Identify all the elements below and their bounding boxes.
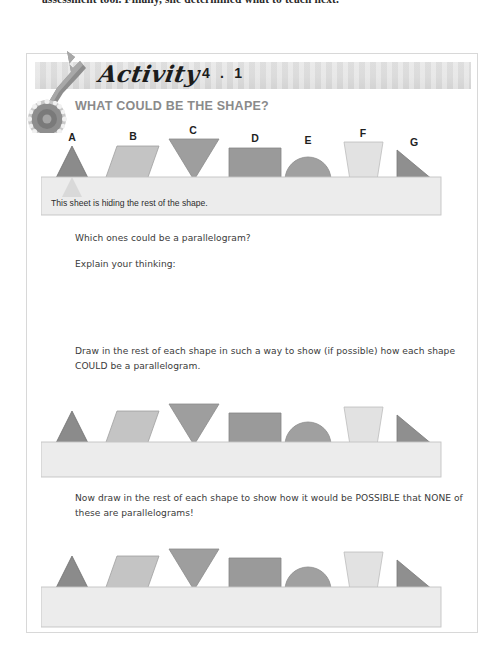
shape-f-trapezoid <box>344 552 383 590</box>
shape-g-right-triangle <box>397 560 433 590</box>
shape-c-inverted-triangle <box>169 549 219 590</box>
shape-a-triangle <box>55 146 89 180</box>
running-text: assessment tool. Finally, she determined… <box>42 0 462 6</box>
shape-f-trapezoid <box>344 142 383 180</box>
shape-d-rectangle <box>229 148 281 180</box>
shape-scene-2 <box>41 389 451 479</box>
hiding-sheet-caption: This sheet is hiding the rest of the sha… <box>51 198 208 208</box>
instruction-none-are: Now draw in the rest of each shape to sh… <box>75 491 465 521</box>
shape-f-trapezoid <box>344 407 383 445</box>
activity-word: Activity <box>97 60 202 87</box>
hiding-sheet-1 <box>41 177 441 215</box>
shape-e-semicircle <box>285 567 331 590</box>
shape-scene-3-svg <box>41 534 451 629</box>
shape-scene-2-svg <box>41 389 451 479</box>
shape-c-inverted-triangle <box>169 404 219 445</box>
shape-b-parallelogram <box>105 411 159 445</box>
shape-label-f: F <box>360 127 367 139</box>
question-explain: Explain your thinking: <box>75 257 375 272</box>
activity-number: 4 . 1 <box>202 65 245 81</box>
shape-a-triangle <box>55 556 89 590</box>
question-parallelogram: Which ones could be a parallelogram? <box>75 231 375 246</box>
hiding-sheet-2 <box>41 442 441 477</box>
activity-card: Activity 4 . 1 WHAT COULD B <box>26 53 478 633</box>
shape-g-right-triangle <box>397 150 433 180</box>
shape-label-g: G <box>410 136 418 148</box>
shape-scene-3 <box>41 534 451 629</box>
shape-e-semicircle <box>285 422 331 445</box>
shape-a-triangle <box>55 411 89 445</box>
shape-label-e: E <box>304 134 311 146</box>
shape-label-d: D <box>251 132 259 144</box>
shape-d-rectangle <box>229 558 281 590</box>
shape-label-b: B <box>129 130 137 142</box>
hiding-sheet-3 <box>41 587 441 627</box>
page-title: WHAT COULD BE THE SHAPE? <box>75 99 269 113</box>
shape-scene-labeled: A B C D E F G This sheet is <box>41 124 451 219</box>
shape-label-a: A <box>68 131 76 143</box>
shape-b-parallelogram <box>105 556 159 590</box>
shape-g-right-triangle <box>397 415 433 445</box>
shape-c-inverted-triangle <box>169 139 219 180</box>
shape-d-rectangle <box>229 413 281 445</box>
instruction-could-be: Draw in the rest of each shape in such a… <box>75 344 465 374</box>
shape-b-parallelogram <box>105 146 159 180</box>
shape-label-c: C <box>189 124 197 136</box>
